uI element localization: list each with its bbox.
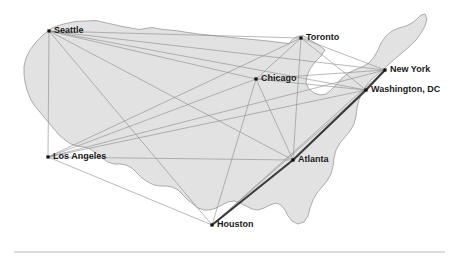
landmass-group bbox=[24, 14, 427, 224]
city-marker-dot bbox=[47, 29, 50, 32]
city-marker-dot bbox=[46, 155, 49, 158]
city-marker-dot bbox=[291, 158, 294, 161]
city-node-houston[interactable]: Houston bbox=[210, 219, 253, 229]
city-node-toronto[interactable]: Toronto bbox=[299, 32, 339, 42]
city-marker-dot bbox=[210, 223, 213, 226]
city-node-washington[interactable]: Washington, DC bbox=[364, 84, 440, 94]
city-marker-dot bbox=[254, 77, 257, 80]
city-node-chicago[interactable]: Chicago bbox=[254, 73, 297, 83]
city-marker-dot bbox=[299, 36, 302, 39]
map-figure: SeattleTorontoChicagoNew YorkWashington,… bbox=[0, 0, 457, 265]
city-label-washington: Washington, DC bbox=[371, 84, 441, 94]
city-node-newyork[interactable]: New York bbox=[383, 64, 431, 74]
city-marker-dot bbox=[383, 68, 386, 71]
city-label-atlanta: Atlanta bbox=[298, 154, 329, 164]
us-route-map-svg: SeattleTorontoChicagoNew YorkWashington,… bbox=[0, 0, 457, 265]
city-label-houston: Houston bbox=[217, 219, 254, 229]
city-label-losangeles: Los Angeles bbox=[53, 151, 106, 161]
city-label-newyork: New York bbox=[390, 64, 431, 74]
city-label-seattle: Seattle bbox=[54, 25, 84, 35]
city-label-chicago: Chicago bbox=[261, 73, 297, 83]
us-landmass-shape bbox=[24, 14, 427, 224]
city-node-atlanta[interactable]: Atlanta bbox=[291, 154, 329, 164]
city-marker-dot bbox=[364, 88, 367, 91]
city-label-toronto: Toronto bbox=[306, 32, 340, 42]
city-node-losangeles[interactable]: Los Angeles bbox=[46, 151, 106, 161]
